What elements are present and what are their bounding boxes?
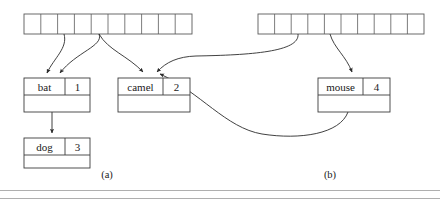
link-b-slot3-to-camel xyxy=(157,34,298,72)
hash-table-b[interactable] xyxy=(258,14,424,34)
link-a-slot3-to-bat xyxy=(47,34,65,73)
hash-table-figure: bat 1 dog 3 camel 2 mouse 4 (a) (b) xyxy=(0,0,440,201)
node-dog-value: 3 xyxy=(75,141,81,153)
node-mouse-key: mouse xyxy=(326,81,355,93)
node-bat[interactable]: bat 1 xyxy=(24,78,90,112)
link-b-slot5-to-mouse xyxy=(330,34,352,72)
node-dog-key: dog xyxy=(36,141,53,153)
link-a-slot5-to-camel xyxy=(99,34,143,72)
node-bat-value: 1 xyxy=(75,81,81,93)
diagram-canvas: bat 1 dog 3 camel 2 mouse 4 (a) (b) xyxy=(0,0,440,201)
node-dog[interactable]: dog 3 xyxy=(24,138,90,168)
hash-table-a[interactable] xyxy=(24,14,192,34)
caption-a: (a) xyxy=(101,169,113,181)
node-mouse[interactable]: mouse 4 xyxy=(318,78,390,112)
node-camel[interactable]: camel 2 xyxy=(118,78,190,112)
node-mouse-value: 4 xyxy=(374,81,380,93)
link-a-slot5-to-bat xyxy=(60,34,100,73)
caption-b: (b) xyxy=(324,169,337,181)
node-bat-key: bat xyxy=(38,81,51,93)
node-camel-value: 2 xyxy=(174,81,180,93)
node-camel-key: camel xyxy=(127,81,153,93)
